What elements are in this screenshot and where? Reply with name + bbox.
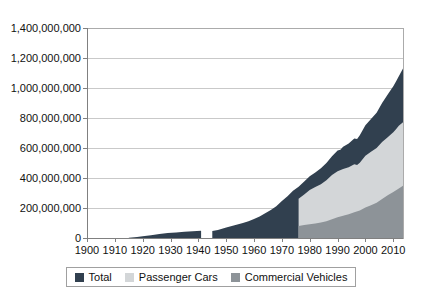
legend-label: Passenger Cars [139, 271, 218, 283]
y-axis-tick-label: 400,000,000 [2, 173, 81, 184]
x-axis-tick-label: 1910 [100, 245, 130, 256]
y-axis-tick-label: 600,000,000 [2, 143, 81, 154]
y-axis-tick-label: 0 [2, 233, 81, 244]
x-axis-tick-label: 2000 [350, 245, 380, 256]
legend-box: TotalPassenger CarsCommercial Vehicles [66, 267, 357, 287]
legend-swatch-icon [75, 273, 84, 282]
y-axis-tick-label: 1,200,000,000 [2, 53, 81, 64]
x-axis-tick-label: 1960 [239, 245, 269, 256]
x-axis-tick-label: 1930 [156, 245, 186, 256]
x-axis-tick-label: 1950 [211, 245, 241, 256]
x-axis-tick-label: 1980 [295, 245, 325, 256]
x-axis-tick-label: 1920 [128, 245, 158, 256]
legend-swatch-icon [231, 273, 240, 282]
legend-item-passenger-cars: Passenger Cars [125, 271, 218, 283]
y-axis-tick-label: 1,400,000,000 [2, 23, 81, 34]
x-axis-tick-label: 1900 [72, 245, 102, 256]
legend-item-commercial-vehicles: Commercial Vehicles [231, 271, 348, 283]
legend-label: Total [89, 271, 112, 283]
legend-swatch-icon [125, 273, 134, 282]
x-axis-tick-label: 1940 [183, 245, 213, 256]
y-axis-tick-label: 1,000,000,000 [2, 83, 81, 94]
area-series-total [129, 231, 201, 238]
chart-legend: TotalPassenger CarsCommercial Vehicles [0, 267, 422, 287]
vehicles-in-use-chart: 1,400,000,0001,200,000,0001,000,000,0008… [0, 0, 422, 305]
y-axis-tick-label: 200,000,000 [2, 203, 81, 214]
y-axis-tick-label: 800,000,000 [2, 113, 81, 124]
legend-item-total: Total [75, 271, 112, 283]
x-axis-tick-label: 1990 [323, 245, 353, 256]
x-axis-tick-label: 1970 [267, 245, 297, 256]
x-axis-tick-label: 2010 [378, 245, 408, 256]
legend-label: Commercial Vehicles [245, 271, 348, 283]
